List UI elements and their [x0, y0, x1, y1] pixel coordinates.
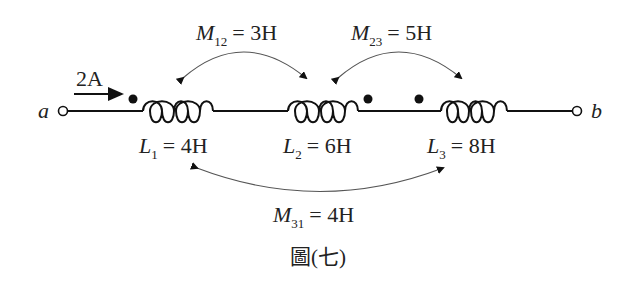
- mutual-m12-label: M12= 3H: [195, 20, 277, 49]
- current-label: 2A: [76, 66, 103, 91]
- mutual-m12-arc-icon: [183, 52, 306, 78]
- figure-caption: 圖(七): [290, 245, 346, 269]
- inductor-l3-label: L3= 8H: [426, 133, 496, 162]
- polarity-dot-l3: [415, 95, 424, 104]
- mutual-m23-label: M23= 5H: [350, 20, 432, 49]
- terminal-a-label: a: [38, 98, 49, 123]
- terminal-b: [573, 107, 582, 116]
- inductor-l1-label: L1= 4H: [138, 133, 208, 162]
- inductor-l2-coil: [288, 101, 358, 122]
- polarity-dot-l1: [129, 95, 138, 104]
- circuit-diagram: a b 2A L1= 4H L2= 6H L3= 8H M12= 3H M23=…: [0, 0, 635, 297]
- mutual-m31-arc-icon: [197, 168, 443, 192]
- mutual-m23-arc-icon: [338, 52, 461, 78]
- terminal-a: [59, 107, 68, 116]
- polarity-dot-l2: [364, 95, 373, 104]
- mutual-m31-label: M31= 4H: [272, 202, 354, 231]
- inductor-l3-coil: [441, 101, 507, 122]
- inductor-l1-coil: [143, 101, 213, 122]
- terminal-b-label: b: [591, 98, 602, 123]
- current-arrowhead-icon: [108, 87, 124, 101]
- inductor-l2-label: L2= 6H: [282, 133, 352, 162]
